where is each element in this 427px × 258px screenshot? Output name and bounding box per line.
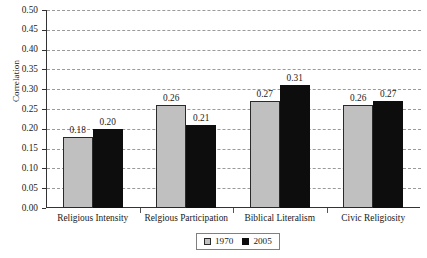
y-tick-mark	[42, 149, 46, 150]
legend-label: 2005	[253, 237, 271, 246]
y-tick-mark	[42, 109, 46, 110]
gridline	[47, 10, 421, 11]
y-tick-mark	[42, 30, 46, 31]
bar-chart: Correlation 0.500.450.400.350.300.250.20…	[0, 0, 427, 258]
bar-value-label: 0.31	[274, 74, 316, 83]
y-tick-label: 0.45	[4, 25, 38, 34]
y-tick-label: 0.35	[4, 65, 38, 74]
bar-value-label: 0.26	[150, 94, 192, 103]
bar-2005-1	[186, 125, 216, 208]
y-tick-mark	[42, 188, 46, 189]
y-tick-mark	[42, 168, 46, 169]
gridline	[47, 50, 421, 51]
category-label: Civic Religiosity	[317, 213, 427, 224]
bar-value-label: 0.20	[87, 118, 129, 127]
legend-label: 1970	[215, 237, 233, 246]
y-tick-label: 0.30	[4, 85, 38, 94]
y-tick-mark	[42, 50, 46, 51]
y-tick-label: 0.15	[4, 144, 38, 153]
bar-1970-3	[343, 105, 373, 208]
bar-2005-2	[280, 85, 310, 208]
legend-swatch-icon	[204, 238, 211, 245]
bar-value-label: 0.21	[180, 114, 222, 123]
y-tick-label: 0.50	[4, 6, 38, 15]
y-tick-label: 0.40	[4, 45, 38, 54]
y-tick-mark	[42, 10, 46, 11]
y-tick-label: 0.25	[4, 105, 38, 114]
y-tick-label: 0.05	[4, 184, 38, 193]
y-tick-mark	[42, 208, 46, 209]
legend-item-2005[interactable]: 2005	[242, 237, 271, 246]
bar-value-label: 0.27	[367, 90, 409, 99]
y-tick-mark	[42, 69, 46, 70]
legend-item-1970[interactable]: 1970	[204, 237, 233, 246]
bar-1970-0	[63, 137, 93, 208]
gridline	[47, 69, 421, 70]
gridline	[47, 89, 421, 90]
gridline	[47, 30, 421, 31]
y-tick-mark	[42, 89, 46, 90]
y-tick-mark	[42, 129, 46, 130]
bar-2005-3	[373, 101, 403, 208]
bar-1970-2	[250, 101, 280, 208]
y-tick-label: 0.10	[4, 164, 38, 173]
y-tick-label: 0.20	[4, 124, 38, 133]
legend-swatch-icon	[242, 238, 249, 245]
y-tick-label: 0.00	[4, 204, 38, 213]
bar-2005-0	[93, 129, 123, 208]
chart-legend: 19702005	[196, 233, 280, 250]
